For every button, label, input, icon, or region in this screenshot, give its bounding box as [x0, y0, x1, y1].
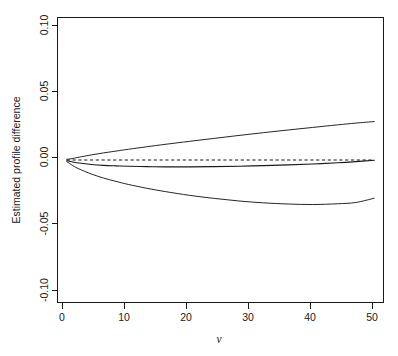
lower-confidence-band-curve: [67, 162, 375, 205]
x-tick-label: 0: [59, 311, 65, 323]
figure-panel: 0.10 0.05 0.00 -0.05 -0.10 0 10 20 30 40…: [0, 0, 398, 356]
x-tick-label: 10: [118, 311, 130, 323]
estimate-curve: [67, 160, 375, 167]
y-tick-label: -0.05: [38, 211, 50, 235]
upper-confidence-band-curve: [67, 122, 375, 160]
y-tick-label: 0.00: [38, 147, 50, 168]
x-tick-label: 20: [180, 311, 192, 323]
x-tick-label: 40: [304, 311, 316, 323]
y-axis-ticks: [52, 25, 58, 290]
x-axis-ticks: [62, 303, 372, 309]
x-axis-tick-labels: 0 10 20 30 40 50: [59, 311, 378, 323]
y-axis-tick-labels: 0.10 0.05 0.00 -0.05 -0.10: [38, 15, 50, 302]
y-tick-label: 0.05: [38, 81, 50, 102]
y-tick-label: -0.10: [38, 278, 50, 302]
y-tick-label: 0.10: [38, 15, 50, 36]
plot-canvas: 0.10 0.05 0.00 -0.05 -0.10 0 10 20 30 40…: [0, 0, 398, 356]
y-axis-title: Estimated profile difference: [10, 96, 22, 223]
data-curves: [67, 122, 375, 205]
x-tick-label: 50: [366, 311, 378, 323]
x-axis-title: v: [216, 333, 222, 345]
x-tick-label: 30: [242, 311, 254, 323]
